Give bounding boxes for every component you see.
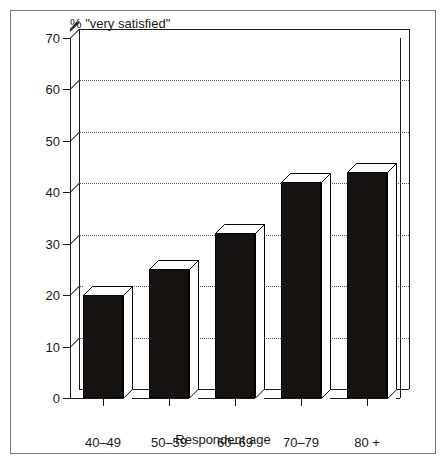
right-wall-back-edge <box>409 29 410 389</box>
figure: % "very satisfied" 010203040506070 40–49… <box>0 0 446 472</box>
y-tick-label: 10 <box>46 340 60 353</box>
y-tick-mark <box>63 38 70 39</box>
y-tick-label: 40 <box>46 186 60 199</box>
bar-top-face <box>149 260 198 269</box>
bar-front-face <box>281 182 321 398</box>
bar <box>347 163 387 389</box>
bar <box>281 173 321 389</box>
gridline <box>79 132 409 133</box>
x-tick-mark <box>169 399 170 406</box>
bar-side-face <box>123 286 132 399</box>
bar-front-face <box>149 269 189 398</box>
bar <box>83 286 123 389</box>
y-tick-mark <box>63 192 70 193</box>
y-tick-label: 0 <box>53 392 60 405</box>
bar-side-face <box>255 224 264 399</box>
right-wall-front-edge <box>400 38 401 398</box>
y-axis-back <box>79 29 80 389</box>
bar-top-face <box>83 286 132 295</box>
y-tick-mark <box>63 244 70 245</box>
bar <box>215 224 255 389</box>
bar-front-face <box>347 172 387 398</box>
y-tick-mark <box>63 295 70 296</box>
gridline <box>79 80 409 81</box>
x-tick-mark <box>367 399 368 406</box>
x-tick-mark <box>103 399 104 406</box>
bar-top-face <box>215 224 264 233</box>
x-axis-title: Respondent age <box>0 432 446 447</box>
y-tick-label: 50 <box>46 134 60 147</box>
y-tick-label: 60 <box>46 83 60 96</box>
back-wall-top-edge <box>79 29 409 30</box>
plot-area: 010203040506070 40–4950–5960–6970–7980 + <box>70 29 409 407</box>
bar-front-face <box>83 295 123 398</box>
y-tick-mark <box>63 141 70 142</box>
y-tick-label: 70 <box>46 32 60 45</box>
bar <box>149 260 189 389</box>
y-tick-mark <box>63 89 70 90</box>
x-tick-mark <box>235 399 236 406</box>
y-tick-mark <box>63 398 70 399</box>
bar-top-face <box>281 173 330 182</box>
bar-side-face <box>387 163 396 399</box>
y-tick-label: 20 <box>46 289 60 302</box>
bar-side-face <box>321 173 330 399</box>
y-tick-mark <box>63 347 70 348</box>
x-tick-mark <box>301 399 302 406</box>
bar-top-face <box>347 163 396 172</box>
bar-side-face <box>189 260 198 399</box>
bar-front-face <box>215 233 255 398</box>
y-tick-label: 30 <box>46 237 60 250</box>
